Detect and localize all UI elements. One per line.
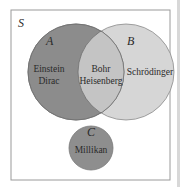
venn-diagram: S A B C Einstein Dirac Bohr Heisenberg S… [0,0,183,187]
member-millikan: Millikan [75,145,108,155]
universe-label: S [18,16,24,30]
member-heisenberg: Heisenberg [79,76,122,86]
member-dirac: Dirac [38,76,59,86]
set-b-label: B [127,34,135,48]
member-einstein: Einstein [33,64,64,74]
page-edge-bar [177,0,180,187]
venn-svg: S A B C Einstein Dirac Bohr Heisenberg S… [0,0,183,187]
set-a-label: A [45,34,54,48]
member-bohr: Bohr [92,64,112,74]
set-c-label: C [87,125,96,139]
member-schrodinger: Schrödinger [127,67,174,77]
